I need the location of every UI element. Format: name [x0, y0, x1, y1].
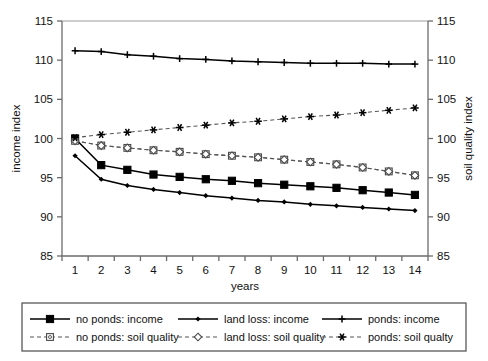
legend-label: land loss: income — [224, 313, 309, 325]
marker-small-diamond — [203, 193, 208, 198]
marker-filled-square — [411, 191, 418, 198]
marker-plus — [124, 51, 131, 58]
x-axis-title: years — [231, 280, 259, 292]
x-tick-label: 2 — [98, 264, 104, 276]
marker-small-diamond — [386, 206, 391, 211]
sq — [333, 184, 340, 191]
marker-plus — [176, 55, 183, 62]
marker-asterisk — [359, 109, 367, 116]
marker-filled-square — [124, 166, 131, 173]
x-tick-label: 4 — [150, 264, 157, 276]
y-tick-label: 110 — [35, 54, 53, 66]
x-tick-label: 13 — [382, 264, 395, 276]
legend-label: land loss: soil quality — [224, 331, 325, 343]
marker-asterisk — [280, 116, 288, 123]
marker-plus — [255, 58, 262, 65]
y2-tick-label: 105 — [437, 93, 456, 105]
legend-label: ponds: income — [368, 313, 440, 325]
marker-small-diamond — [412, 208, 417, 213]
y-tick-label: 90 — [40, 211, 53, 223]
series-5 — [71, 105, 418, 141]
legend-label: ponds: soil qualty — [368, 331, 453, 343]
y-axis-right: 859095100105110115 — [428, 15, 456, 262]
marker-filled-square — [385, 189, 392, 196]
marker-plus — [412, 61, 419, 68]
marker-small-diamond — [360, 205, 365, 210]
y2-tick-label: 85 — [437, 250, 450, 262]
marker-asterisk — [176, 124, 184, 131]
sq — [254, 180, 261, 187]
y2-axis-title: soil quality index — [462, 96, 474, 181]
marker-asterisk — [333, 112, 341, 119]
line-chart: 8590951001051101158590951001051101151234… — [0, 0, 488, 361]
dm — [229, 195, 234, 200]
dm — [125, 183, 130, 188]
sq — [411, 191, 418, 198]
marker-filled-square — [46, 315, 53, 322]
marker-filled-square — [333, 184, 340, 191]
marker-plus — [98, 48, 105, 55]
sq — [385, 189, 392, 196]
marker-filled-square — [202, 176, 209, 183]
x-tick-label: 3 — [124, 264, 130, 276]
marker-small-diamond — [255, 198, 260, 203]
marker-plus — [307, 60, 314, 67]
y2-tick-label: 115 — [437, 15, 455, 27]
legend-box — [22, 303, 466, 351]
dm — [151, 187, 156, 192]
plot-frame — [62, 21, 428, 256]
marker-small-diamond — [125, 183, 130, 188]
series-1 — [72, 153, 417, 213]
y-tick-label: 95 — [40, 172, 53, 184]
legend-label: no ponds: income — [76, 313, 163, 325]
marker-asterisk — [307, 113, 315, 120]
marker-plus — [359, 60, 366, 67]
sq — [228, 177, 235, 184]
y-tick-label: 115 — [35, 15, 53, 27]
marker-asterisk — [202, 122, 210, 129]
y-axis-title: income index — [10, 104, 22, 172]
dm — [308, 202, 313, 207]
x-tick-label: 14 — [409, 264, 422, 276]
marker-asterisk — [124, 129, 132, 136]
marker-plus — [72, 47, 79, 54]
marker-filled-square — [307, 183, 314, 190]
marker-plus — [229, 58, 236, 65]
osq — [47, 334, 54, 341]
marker-filled-square — [359, 187, 366, 194]
marker-plus — [385, 61, 392, 68]
marker-plus — [333, 60, 340, 67]
dm — [412, 208, 417, 213]
y-tick-label: 85 — [40, 250, 53, 262]
dm — [360, 205, 365, 210]
marker-small-diamond — [282, 199, 287, 204]
x-tick-label: 1 — [72, 264, 78, 276]
x-tick-label: 9 — [281, 264, 287, 276]
x-tick-label: 11 — [331, 264, 343, 276]
marker-filled-square — [98, 162, 105, 169]
marker-plus — [202, 56, 209, 63]
x-tick-label: 8 — [255, 264, 261, 276]
marker-plus — [150, 53, 157, 60]
marker-open-square — [47, 334, 54, 341]
dm — [255, 198, 260, 203]
dm — [177, 190, 182, 195]
marker-asterisk — [254, 118, 262, 125]
marker-asterisk — [150, 127, 158, 134]
y-axis-left: 859095100105110115 — [34, 15, 62, 262]
sq — [359, 187, 366, 194]
x-tick-label: 5 — [176, 264, 182, 276]
sq — [307, 183, 314, 190]
marker-asterisk — [411, 105, 419, 112]
x-axis: 1234567891011121314 — [62, 256, 428, 276]
marker-asterisk — [97, 131, 105, 138]
legend: no ponds: incomeland loss: incomeponds: … — [22, 303, 466, 351]
series-line — [75, 51, 415, 64]
marker-small-diamond — [334, 203, 339, 208]
sq — [202, 176, 209, 183]
marker-filled-square — [228, 177, 235, 184]
x-tick-label: 10 — [304, 264, 317, 276]
sq — [281, 181, 288, 188]
marker-filled-square — [281, 181, 288, 188]
chart-figure: 8590951001051101158590951001051101151234… — [0, 0, 488, 361]
